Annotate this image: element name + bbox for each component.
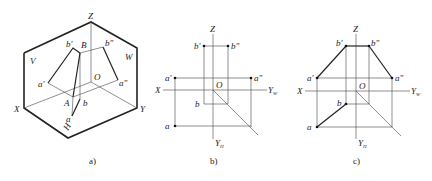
- line-ap-bp: [317, 46, 346, 78]
- label-b-prime: b': [336, 38, 344, 48]
- label-z: Z: [353, 24, 359, 34]
- proj-ap-A: [48, 83, 73, 97]
- label-yw: YW: [268, 85, 278, 96]
- label-z: Z: [210, 24, 216, 34]
- projection-diagram: Z V W X Y O b' B b" a' a" A b a H a): [0, 0, 432, 181]
- caption-c: c): [353, 156, 360, 166]
- caption-a: a): [89, 156, 96, 166]
- label-b-dprime: b": [371, 38, 380, 48]
- panel-a: Z V W X Y O b' B b" a' a" A b a H a): [13, 11, 146, 166]
- line-ap-bp: [48, 48, 80, 83]
- line-a-b: [317, 104, 346, 127]
- label-b-prime: b': [194, 41, 202, 51]
- point-b-dprime: [368, 45, 371, 48]
- label-b-prime: b': [66, 39, 74, 49]
- label-a-dprime: a": [119, 78, 128, 88]
- label-o: O: [216, 80, 223, 90]
- line-AB: [73, 53, 80, 97]
- label-b: b: [337, 98, 342, 108]
- point-b-dprime: [227, 45, 230, 48]
- axis-x: [24, 82, 91, 108]
- panel-c: Z b' b" a' a" X O YW b a YH c): [296, 24, 421, 166]
- point-a-prime: [174, 77, 177, 80]
- label-a-dprime: a": [395, 73, 404, 83]
- point-b-prime: [203, 45, 206, 48]
- line-add-bdd: [103, 47, 118, 80]
- label-v: V: [30, 56, 37, 66]
- line-a-b: [72, 99, 80, 116]
- label-x: X: [13, 104, 20, 114]
- label-b: b: [195, 99, 200, 109]
- point-a: [174, 125, 177, 128]
- label-z: Z: [88, 11, 94, 21]
- point-a-dprime: [250, 77, 253, 80]
- label-a-prime: a': [38, 79, 46, 89]
- point-a: [316, 126, 319, 129]
- label-yh: YH: [215, 138, 224, 149]
- label-b-dprime: b": [231, 41, 240, 51]
- line-bdd-add: [369, 46, 392, 78]
- caption-b: b): [210, 156, 218, 166]
- axis-45-diagonal: [356, 91, 401, 136]
- label-y: Y: [140, 104, 146, 114]
- label-yh: YH: [358, 138, 367, 149]
- point-a-dprime: [391, 77, 394, 80]
- axis-y: [91, 82, 137, 108]
- label-B: B: [81, 40, 87, 50]
- label-o: O: [359, 81, 366, 91]
- label-a: a: [307, 122, 312, 132]
- label-a: a: [66, 114, 71, 124]
- label-x: X: [296, 86, 303, 96]
- label-A: A: [63, 98, 70, 108]
- label-a-dprime: a": [254, 73, 263, 83]
- label-o: O: [94, 72, 101, 82]
- point-b-prime: [345, 45, 348, 48]
- label-b-dprime: b": [105, 38, 114, 48]
- point-a-prime: [316, 77, 319, 80]
- label-a-prime: a': [165, 73, 173, 83]
- label-a-prime: a': [307, 73, 315, 83]
- point-b: [345, 103, 348, 106]
- label-w: W: [125, 52, 134, 62]
- label-b: b: [83, 98, 88, 108]
- label-a: a: [165, 121, 170, 131]
- label-yw: YW: [411, 86, 421, 97]
- panel-b: Z b' b" a' a" X O YW b a YH b): [154, 24, 278, 166]
- label-x: X: [154, 85, 161, 95]
